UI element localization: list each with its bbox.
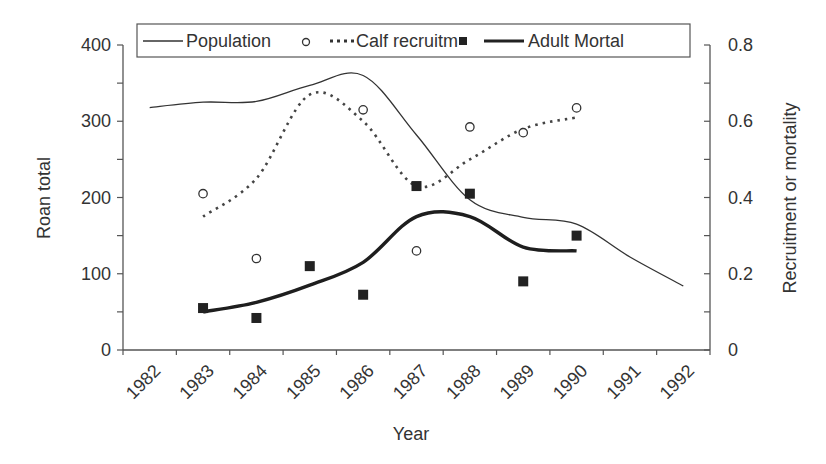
y-tick-label-left: 200 [81,188,111,208]
y-tick-label-left: 300 [81,111,111,131]
x-tick-label: 1983 [175,361,217,403]
x-tick-label: 1990 [549,361,591,403]
legend-label-population: Population [186,31,271,51]
chart: 1982198319841985198619871988198919901991… [0,0,826,464]
x-tick-label: 1985 [282,361,324,403]
open-circle-marker [519,128,527,136]
open-circle-marker [199,189,207,197]
x-tick-label: 1991 [602,361,644,403]
x-tick-label: 1988 [442,361,484,403]
filled-square-marker [198,303,208,313]
x-tick-label: 1989 [496,361,538,403]
y-axis-title-right: Recruitment or mortality [780,102,800,293]
filled-square-marker [572,231,582,241]
x-tick-label: 1992 [656,361,698,403]
x-axis-title: Year [393,424,429,444]
open-circle-marker [466,123,474,131]
filled-square-marker [251,313,261,323]
open-circle-marker [572,104,580,112]
filled-square-marker [412,181,422,191]
legend-label-adult-mortality: Adult Mortal [528,31,624,51]
filled-square-marker [305,261,315,271]
filled-square-marker [358,290,368,300]
y-axis-title-left: Roan total [34,157,54,239]
y-tick-label-right: 0.8 [728,35,753,55]
legend-label-calf-recruitment: Calf recruitm [356,31,458,51]
y-tick-label-right: 0.6 [728,111,753,131]
y-tick-label-left: 100 [81,264,111,284]
x-tick-label: 1986 [336,361,378,403]
open-circle-marker [252,254,260,262]
axes: 1982198319841985198619871988198919901991… [81,35,753,403]
y-tick-label-left: 0 [101,340,111,360]
x-tick-label: 1984 [229,361,271,403]
x-tick-label: 1987 [389,361,431,403]
y-tick-label-right: 0.4 [728,188,753,208]
y-tick-label-right: 0.2 [728,264,753,284]
filled-square-marker [518,276,528,286]
y-tick-label-right: 0 [728,340,738,360]
open-circle-marker [359,106,367,114]
x-tick-label: 1982 [122,361,164,403]
open-circle-marker [412,247,420,255]
filled-square-marker [465,189,475,199]
filled-square-icon [459,37,467,45]
y-tick-label-left: 400 [81,35,111,55]
series-layer [150,73,684,323]
series-calf-recruitment-smoothed [203,92,577,216]
legend: Population Calf recruitm Adult Mortal [137,24,690,57]
